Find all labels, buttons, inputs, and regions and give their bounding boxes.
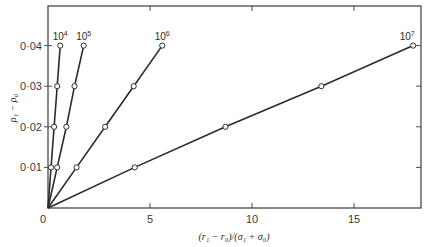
data-point-marker <box>132 165 137 170</box>
data-point-marker <box>74 165 79 170</box>
series-label: 104 <box>53 30 68 42</box>
y-axis-label: ρ₁ − ρ₀ <box>7 93 18 123</box>
x-tick-label: 10 <box>246 213 258 225</box>
x-tick-label: 0 <box>40 213 46 225</box>
x-axis-label: (r₁ − r₀)/(σ₁ + σ₀) <box>198 231 270 243</box>
x-tick-label: 15 <box>348 213 360 225</box>
series-labels: 104105106107 <box>53 30 415 42</box>
x-tick-label: 5 <box>147 213 153 225</box>
data-point-marker <box>52 124 57 129</box>
data-point-marker <box>72 84 77 89</box>
data-point-marker <box>48 165 53 170</box>
y-tick-label: 0·02 <box>20 121 42 133</box>
data-point-marker <box>160 43 165 48</box>
y-tick-label: 0·04 <box>20 40 42 52</box>
series-label: 106 <box>155 30 170 42</box>
data-point-marker <box>55 84 60 89</box>
data-point-marker <box>103 124 108 129</box>
series-10e4 <box>48 43 63 208</box>
data-point-marker <box>58 43 63 48</box>
chart-canvas: 0510150·010·020·030·04 104105106107 (r₁ … <box>0 0 429 247</box>
y-tick-label: 0·03 <box>20 80 42 92</box>
series-label: 107 <box>400 30 415 42</box>
series-label: 105 <box>76 30 91 42</box>
data-point-marker <box>411 43 416 48</box>
y-tick-label: 0·01 <box>20 161 42 173</box>
series-lines <box>48 43 416 208</box>
data-point-marker <box>81 43 86 48</box>
data-point-marker <box>223 124 228 129</box>
data-point-marker <box>131 84 136 89</box>
data-point-marker <box>64 124 69 129</box>
data-point-marker <box>55 165 60 170</box>
data-point-marker <box>319 84 324 89</box>
plot-frame <box>48 6 421 208</box>
